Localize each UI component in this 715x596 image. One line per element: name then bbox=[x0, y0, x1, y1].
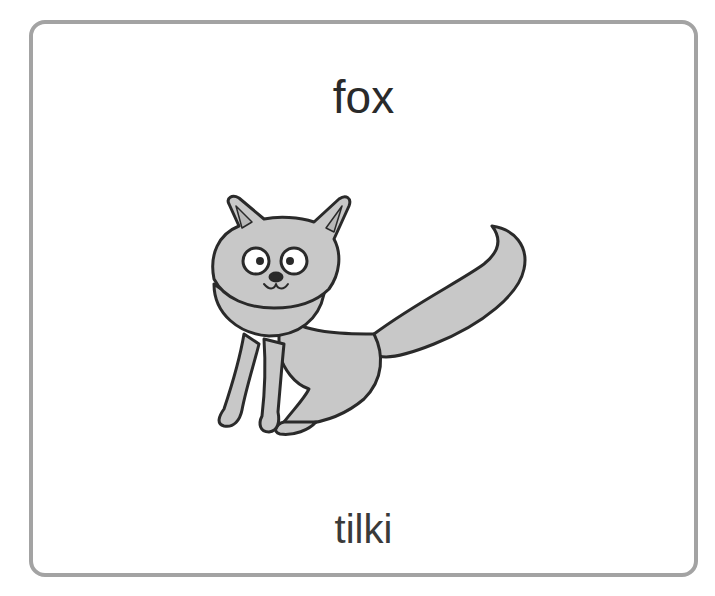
fox-illustration bbox=[184, 184, 544, 444]
flashcard: fox t bbox=[29, 20, 698, 577]
translation-word: tilki bbox=[33, 507, 694, 552]
english-word: fox bbox=[33, 70, 694, 124]
